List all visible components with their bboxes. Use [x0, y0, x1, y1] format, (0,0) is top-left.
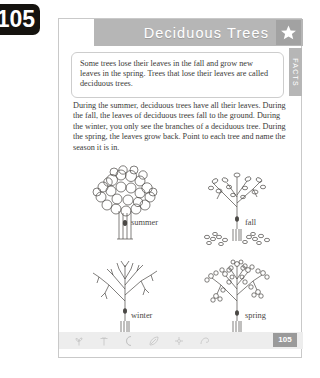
page-header-banner: Deciduous Trees — [94, 19, 303, 46]
flower-icon — [173, 335, 185, 347]
season-label-winter: winter — [131, 311, 152, 320]
fact-box-text: Some trees lose their leaves in the fall… — [80, 59, 275, 90]
instructions-text: During the summer, deciduous trees have … — [73, 101, 289, 153]
worksheet-page: Deciduous Trees FACTS Some trees lose th… — [58, 18, 302, 358]
tree-illustration-grid: summer — [69, 161, 293, 341]
tree-summer-icon — [73, 161, 177, 249]
facts-side-tab-label: FACTS — [292, 58, 299, 87]
tree-fall-icon — [185, 161, 289, 249]
page-title: Deciduous Trees — [144, 25, 276, 41]
season-label-fall: fall — [245, 218, 256, 227]
swirl-icon — [198, 335, 210, 347]
facts-side-tab: FACTS — [289, 48, 302, 96]
page-footer-bar: 105 — [59, 332, 303, 349]
season-label-summer: summer — [131, 218, 158, 227]
corner-page-badge: 105 — [0, 4, 40, 35]
footer-page-number: 105 — [273, 333, 297, 347]
tree-item-summer[interactable]: summer — [69, 161, 181, 249]
star-icon — [276, 20, 301, 45]
season-label-spring: spring — [245, 311, 266, 320]
tree-item-spring[interactable]: spring — [181, 249, 293, 341]
sprout-icon — [98, 335, 110, 347]
footer-decor-icons — [73, 332, 210, 349]
leaf-icon — [148, 335, 160, 347]
tree-winter-icon — [73, 249, 177, 341]
fact-box: Some trees lose their leaves in the fall… — [71, 52, 284, 98]
tree-item-winter[interactable]: winter — [69, 249, 181, 341]
plant-icon — [73, 335, 85, 347]
moon-icon — [123, 335, 135, 347]
tree-spring-icon — [185, 249, 289, 341]
tree-item-fall[interactable]: fall — [181, 161, 293, 249]
